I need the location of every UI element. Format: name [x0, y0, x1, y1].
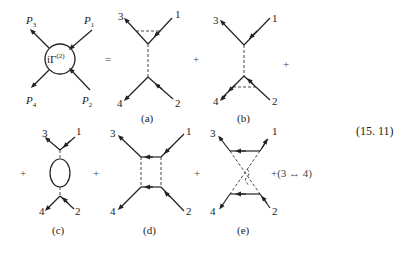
leg-p1-arrow [71, 30, 92, 48]
label-3: 3 [42, 127, 48, 139]
leg-p3-arrow [32, 31, 49, 48]
label-3: 3 [213, 14, 219, 26]
label-4: 4 [210, 205, 216, 217]
leg-p4-arrow [33, 70, 49, 86]
label-p4: P4 [25, 94, 37, 109]
label-1: 1 [175, 8, 181, 20]
label-p3: P3 [25, 14, 37, 29]
label-4: 4 [117, 97, 123, 109]
label-2: 2 [75, 205, 81, 217]
label-3: 3 [210, 127, 216, 139]
plus-sign: + [20, 167, 26, 179]
line-3 [126, 20, 148, 44]
label-2: 2 [272, 95, 278, 107]
equation-number: (15. 11) [356, 124, 394, 138]
caption-b: (b) [237, 112, 250, 125]
caption-e: (e) [237, 224, 250, 237]
caption-a: (a) [141, 112, 154, 125]
label-4: 4 [39, 205, 45, 217]
label-4: 4 [110, 205, 116, 217]
label-2: 2 [175, 97, 181, 109]
fermion-loop [50, 159, 70, 187]
feynman-diagram-equation: iΓ(2) P1 P2 P3 P4 = 3 1 4 2 (a) + [0, 0, 415, 253]
plus-sign: + [283, 58, 289, 70]
diagram-d: 3 1 4 2 (d) [110, 125, 192, 237]
label-2: 2 [272, 205, 278, 217]
label-1: 1 [186, 125, 192, 137]
label-3: 3 [118, 10, 124, 22]
label-1: 1 [272, 125, 278, 137]
label-1: 1 [76, 125, 82, 137]
plus-sign: + [194, 167, 200, 179]
label-3: 3 [110, 127, 116, 139]
diagram-b: 3 1 4 2 (b) [213, 12, 278, 125]
diagram-c: 3 1 4 2 (c) [39, 125, 82, 237]
diagram-a: 3 1 4 2 (a) [117, 8, 181, 125]
label-2: 2 [186, 205, 192, 217]
diagram-e: 3 1 4 2 (e) [210, 125, 278, 237]
equals-sign: = [105, 53, 111, 65]
label-p2: P2 [81, 94, 93, 109]
caption-d: (d) [143, 224, 156, 237]
label-1: 1 [272, 12, 278, 24]
exchange-term: +(3 ↔ 4) [271, 167, 312, 180]
lhs-vertex-function: iΓ(2) P1 P2 P3 P4 [25, 14, 95, 109]
label-4: 4 [213, 95, 219, 107]
caption-c: (c) [52, 224, 65, 237]
label-p1: P1 [83, 14, 95, 29]
leg-p2-arrow [71, 70, 90, 90]
plus-sign: + [93, 167, 99, 179]
plus-sign: + [193, 53, 199, 65]
